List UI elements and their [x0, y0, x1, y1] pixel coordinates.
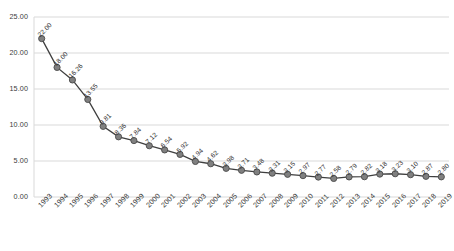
y-axis-tick-label: 5.00 — [0, 156, 28, 165]
y-axis-tick-label: 25.00 — [0, 12, 28, 21]
y-axis-tick-label: 15.00 — [0, 84, 28, 93]
y-axis-tick-label: 20.00 — [0, 48, 28, 57]
y-axis-tick-label: 0.00 — [0, 192, 28, 201]
data-line — [42, 39, 442, 179]
y-axis-tick-label: 10.00 — [0, 120, 28, 129]
